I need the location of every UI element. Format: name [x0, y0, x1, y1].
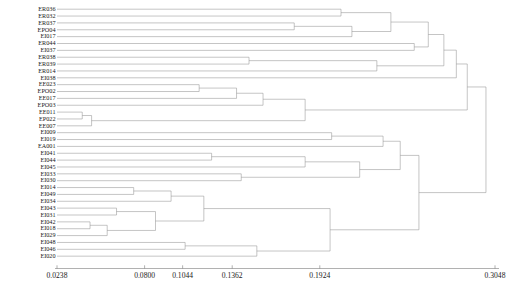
dendrogram-link	[57, 26, 352, 36]
dendrogram-link	[330, 155, 419, 229]
dendrogram-link	[57, 23, 294, 30]
axis-tick-label: 0.0800	[134, 271, 155, 280]
dendrogram-link	[57, 157, 305, 167]
dendrogram-link	[57, 242, 185, 249]
dendrogram-link	[241, 162, 359, 177]
dendrogram-link	[57, 93, 263, 105]
x-axis: 0.02380.08000.10440.13620.19240.3048	[47, 265, 506, 280]
dendrogram-figure: ER036ER032ER037EPO04EI017ER044EI037ER038…	[0, 0, 506, 301]
dendrogram-link	[57, 222, 90, 229]
dendrogram-link	[57, 136, 383, 146]
dendrogram-link	[57, 133, 332, 140]
dendrogram-link	[341, 13, 391, 32]
dendrogram-link	[57, 225, 107, 235]
dendrogram-link	[92, 99, 306, 120]
dendrogram-link	[204, 209, 330, 251]
dendrogram-link	[107, 212, 155, 231]
dendrogram-link	[419, 87, 486, 193]
leaf-label-group: ER036ER032ER037EPO04EI017ER044EI037ER038…	[38, 5, 56, 259]
dendrogram-link	[57, 44, 414, 51]
dendrogram-link	[391, 22, 428, 47]
dendrogram-link	[57, 57, 249, 64]
leaf-label: EI020	[40, 252, 55, 259]
dendrogram-link	[57, 188, 134, 195]
dendrogram-link	[57, 153, 212, 160]
dendrogram-link	[57, 85, 199, 92]
dendrogram-link	[156, 196, 204, 221]
dendrogram-link	[360, 141, 401, 169]
dendrogram-link	[57, 112, 82, 119]
axis-tick-label: 0.1044	[172, 271, 193, 280]
dendrogram-link	[57, 61, 377, 71]
dendrogram-link-group	[57, 9, 486, 256]
dendrogram-link	[57, 191, 171, 201]
dendrogram-link	[57, 208, 117, 215]
axis-tick-label: 0.1924	[309, 271, 330, 280]
dendrogram-link	[57, 88, 237, 98]
axis-tick-label: 0.3048	[485, 271, 506, 280]
dendrogram-plot: ER036ER032ER037EPO04EI017ER044EI037ER038…	[0, 0, 506, 301]
dendrogram-link	[57, 246, 257, 256]
axis-tick-label: 0.1362	[222, 271, 243, 280]
dendrogram-link	[57, 9, 341, 16]
dendrogram-link	[57, 174, 241, 181]
dendrogram-link	[57, 116, 92, 126]
axis-tick-label: 0.0238	[47, 271, 68, 280]
